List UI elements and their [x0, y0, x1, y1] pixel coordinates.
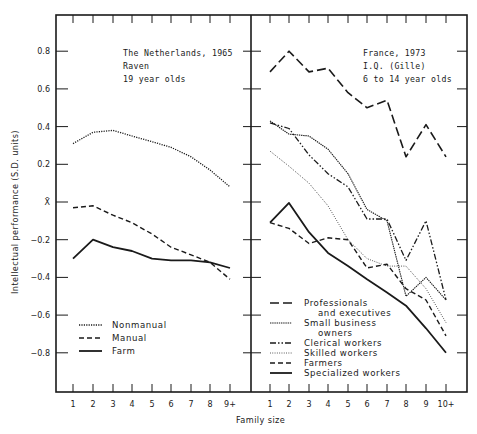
y-tick-label: X̄	[45, 197, 51, 207]
family-size-chart: 123456789+0.80.60.40.2X̄−0.2−0.4−0.6−0.8…	[0, 0, 477, 434]
legend-label: Professionals	[304, 298, 368, 308]
y-tick-label: −0.6	[31, 311, 50, 320]
panel-annotation-line: France, 1973	[363, 48, 426, 58]
x-tick-label: 3	[306, 400, 311, 409]
x-tick-label: 4	[325, 400, 330, 409]
legend-label: Skilled workers	[304, 348, 378, 358]
y-tick-label: −0.2	[31, 236, 50, 245]
panel-annotation-line: 19 year olds	[123, 74, 186, 84]
x-tick-label: 5	[345, 400, 350, 409]
x-tick-label: 4	[129, 400, 134, 409]
legend-label: owners	[318, 328, 353, 338]
left-series-lines	[73, 130, 230, 279]
x-tick-label: 2	[90, 400, 95, 409]
right-panel-annotation: France, 1973I.Q. (Gille)6 to 14 year old…	[363, 48, 452, 84]
x-axis-title: Family size	[236, 415, 285, 425]
x-tick-label: 8	[403, 400, 408, 409]
legend-label: Clerical workers	[304, 338, 382, 348]
series-line-specialized-workers	[270, 203, 446, 353]
x-tick-label: 9+	[224, 400, 236, 409]
y-tick-label: 0.6	[37, 85, 50, 94]
x-tick-label: 1	[267, 400, 272, 409]
y-tick-label: −0.8	[31, 349, 50, 358]
legend-label: and executives	[318, 308, 391, 318]
panel-annotation-line: The Netherlands, 1965	[123, 48, 233, 58]
x-tick-label: 2	[286, 400, 291, 409]
x-tick-label: 7	[188, 400, 193, 409]
legend-label: Manual	[112, 333, 147, 343]
y-axis-title: Intellectual performance (S.D. units)	[10, 130, 20, 294]
y-tick-label: 0.2	[37, 160, 50, 169]
france-panel: 12345678910+ France, 1973I.Q. (Gille)6 t…	[243, 15, 467, 409]
left-panel-annotation: The Netherlands, 1965Raven19 year olds	[123, 48, 233, 84]
legend-label: Specialized workers	[304, 368, 401, 378]
y-tick-label: 0.8	[37, 47, 50, 56]
legend-label: Farm	[112, 346, 136, 356]
series-line-nonmanual	[73, 130, 230, 187]
panel-annotation-line: I.Q. (Gille)	[363, 61, 426, 71]
x-tick-label: 5	[149, 400, 154, 409]
x-tick-label: 6	[168, 400, 173, 409]
y-tick-label: 0.4	[37, 123, 50, 132]
x-tick-label: 8	[207, 400, 212, 409]
x-tick-label: 1	[70, 400, 75, 409]
y-tick-label: −0.4	[31, 273, 50, 282]
series-line-farm	[73, 240, 230, 268]
legend-label: Small business	[304, 318, 376, 328]
x-tick-label: 3	[110, 400, 115, 409]
legend-label: Farmers	[304, 358, 343, 368]
left-legend: NonmanualManualFarm	[79, 320, 167, 356]
x-tick-label: 7	[384, 400, 389, 409]
right-legend: Professionalsand executivesSmall busines…	[270, 298, 401, 378]
netherlands-panel: 123456789+0.80.60.40.2X̄−0.2−0.4−0.6−0.8…	[31, 15, 236, 409]
series-line-manual	[73, 206, 230, 279]
x-tick-label: 10+	[438, 400, 455, 409]
x-tick-label: 6	[364, 400, 369, 409]
legend-label: Nonmanual	[112, 320, 167, 330]
x-tick-label: 9	[423, 400, 428, 409]
panel-annotation-line: Raven	[123, 61, 149, 71]
panel-annotation-line: 6 to 14 year olds	[363, 74, 452, 84]
